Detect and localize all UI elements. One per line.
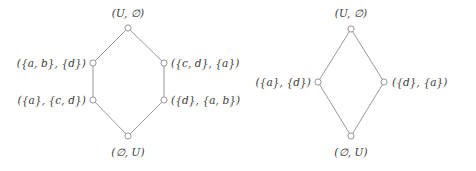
lattice-edge: [130, 102, 162, 134]
node-label: ({a}, {c, d}): [18, 95, 86, 106]
node-label: ({a, b}, {d}): [17, 58, 86, 69]
node-label: (∅, U): [334, 147, 367, 158]
lattice-node[interactable]: [348, 133, 354, 139]
lattice-edge: [95, 102, 126, 134]
lattice-node[interactable]: [161, 97, 167, 103]
node-label: ({c, d}, {a}): [171, 58, 239, 69]
node-label: (∅, U): [111, 147, 144, 158]
lattice-edge: [95, 30, 126, 61]
hasse-diagram-figure: (U, ∅)({a, b}, {d})({c, d}, {a})({a}, {c…: [0, 0, 476, 171]
lattice-node[interactable]: [381, 79, 387, 85]
node-label: (U, ∅): [335, 8, 367, 19]
lattice-node[interactable]: [348, 26, 354, 32]
lattice-node[interactable]: [161, 60, 167, 66]
lattice-edge: [353, 32, 383, 80]
lattice-node[interactable]: [90, 60, 96, 66]
lattice-edge: [320, 85, 350, 134]
node-label: (U, ∅): [112, 8, 144, 19]
lattice-node[interactable]: [315, 79, 321, 85]
lattice-node[interactable]: [125, 25, 131, 31]
lattice-edge: [353, 85, 383, 134]
lattice-edge: [130, 30, 162, 61]
lattice-edge: [320, 32, 350, 80]
node-label: ({d}, {a, b}): [171, 95, 240, 106]
node-label: ({d}, {a}): [392, 77, 448, 88]
node-label: ({a}, {d}): [255, 77, 311, 88]
lattice-node[interactable]: [90, 97, 96, 103]
lattice-node[interactable]: [125, 133, 131, 139]
edges-group: [93, 30, 382, 134]
